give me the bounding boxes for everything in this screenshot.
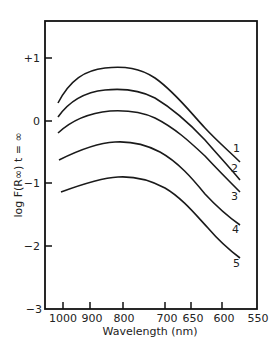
y-tick-label: 0 xyxy=(33,115,40,128)
curve-3 xyxy=(58,111,240,192)
curve-2 xyxy=(58,89,240,180)
x-axis: 1000 900 800 700 650 600 550 xyxy=(49,302,269,325)
y-tick-label: −2 xyxy=(24,240,40,253)
x-tick-label: 800 xyxy=(114,312,135,325)
curve-label-2: 2 xyxy=(231,162,238,175)
chart: +1 0 −1 −2 −3 1000 900 800 700 650 600 5… xyxy=(0,0,272,349)
x-tick-label: 600 xyxy=(214,312,235,325)
y-axis: +1 0 −1 −2 −3 xyxy=(24,52,52,316)
y-tick-label: −3 xyxy=(26,303,42,316)
x-tick-label: 650 xyxy=(183,312,204,325)
x-tick-label: 700 xyxy=(157,312,178,325)
x-tick-label: 1000 xyxy=(49,312,77,325)
curve-label-3: 3 xyxy=(231,190,238,203)
x-axis-title: Wavelength (nm) xyxy=(102,325,197,338)
x-tick-label: 550 xyxy=(248,312,269,325)
curve-label-4: 4 xyxy=(232,223,239,236)
y-tick-label: −1 xyxy=(24,177,40,190)
curve-label-1: 1 xyxy=(233,142,240,155)
y-axis-title: log F(R∞) t = ∞ xyxy=(12,132,25,217)
curve-label-5: 5 xyxy=(233,257,240,270)
curves xyxy=(58,67,240,258)
plot-frame xyxy=(45,21,257,309)
y-tick-label: +1 xyxy=(24,52,40,65)
curve-5 xyxy=(61,177,240,258)
x-tick-label: 900 xyxy=(82,312,103,325)
